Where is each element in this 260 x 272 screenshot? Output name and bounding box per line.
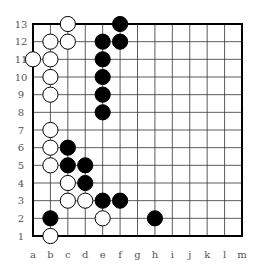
row-labels: 13121110987654321: [15, 19, 28, 242]
white-stone-a11: [25, 52, 40, 67]
column-label: j: [187, 249, 191, 260]
column-label: f: [118, 249, 123, 260]
white-stone-b5: [43, 158, 58, 173]
black-stone-f13: [112, 16, 127, 31]
white-stone-e2: [95, 211, 110, 226]
white-stone-b7: [43, 122, 58, 137]
black-stone-h2: [147, 211, 162, 226]
black-stone-e3: [95, 193, 110, 208]
row-label: 5: [18, 160, 24, 171]
column-label: l: [223, 249, 226, 260]
white-stone-c4: [60, 175, 75, 190]
column-label: b: [47, 249, 53, 260]
column-label: h: [152, 249, 159, 260]
column-label: m: [237, 249, 247, 260]
white-stone-b6: [43, 140, 58, 155]
column-label: a: [30, 249, 36, 260]
black-stone-d5: [78, 158, 93, 173]
go-board: 13121110987654321 abcdefghijklm: [0, 0, 260, 272]
white-stone-b9: [43, 87, 58, 102]
black-stone-b2: [43, 211, 58, 226]
row-label: 4: [18, 178, 24, 189]
column-label: e: [100, 249, 106, 260]
row-label: 3: [18, 195, 24, 206]
black-stone-d4: [78, 175, 93, 190]
white-stone-d3: [78, 193, 93, 208]
column-label: k: [204, 249, 211, 260]
black-stone-e12: [95, 34, 110, 49]
black-stone-c6: [60, 140, 75, 155]
row-label: 10: [15, 72, 28, 83]
column-label: d: [82, 249, 89, 260]
row-label: 1: [18, 231, 24, 242]
column-label: i: [171, 249, 174, 260]
row-label: 9: [18, 89, 24, 100]
column-labels: abcdefghijklm: [30, 249, 247, 260]
white-stone-c13: [60, 16, 75, 31]
black-stone-e8: [95, 105, 110, 120]
white-stone-b10: [43, 69, 58, 84]
row-label: 6: [18, 142, 24, 153]
black-stone-f12: [112, 34, 127, 49]
white-stone-b12: [43, 34, 58, 49]
black-stone-e11: [95, 52, 110, 67]
white-stone-b11: [43, 52, 58, 67]
column-label: g: [134, 249, 141, 260]
column-label: c: [65, 249, 71, 260]
row-label: 13: [15, 19, 28, 30]
row-label: 12: [15, 36, 28, 47]
white-stone-c12: [60, 34, 75, 49]
black-stone-e9: [95, 87, 110, 102]
row-label: 7: [18, 125, 24, 136]
white-stone-b1: [43, 228, 58, 243]
black-stone-f3: [112, 193, 127, 208]
black-stone-e10: [95, 69, 110, 84]
white-stone-c3: [60, 193, 75, 208]
row-label: 2: [18, 213, 24, 224]
row-label: 8: [18, 107, 24, 118]
black-stone-c5: [60, 158, 75, 173]
